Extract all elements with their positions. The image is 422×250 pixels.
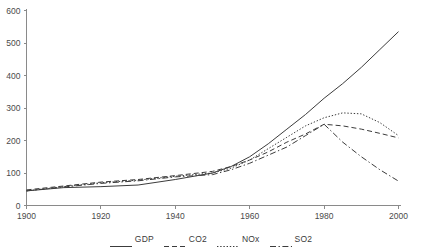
legend-item-gdp[interactable]: GDP xyxy=(110,234,154,244)
y-tick-label: 300 xyxy=(6,103,20,113)
legend-swatch-so2-icon xyxy=(270,236,292,243)
series-line-nox xyxy=(27,113,399,191)
y-tick-label: 200 xyxy=(6,136,20,146)
legend-label: CO2 xyxy=(189,234,207,244)
y-tick-label: 600 xyxy=(6,6,20,16)
x-tick-label: 2000 xyxy=(389,211,408,221)
legend-label: NOx xyxy=(242,234,260,244)
line-chart: 0100200300400500600 19001920194019601980… xyxy=(0,0,422,222)
legend-swatch-gdp-icon xyxy=(110,236,132,243)
legend-swatch-co2-icon xyxy=(164,236,186,243)
x-tick-label: 1920 xyxy=(91,211,110,221)
chart-svg: 0100200300400500600 19001920194019601980… xyxy=(0,0,422,222)
chart-page: 0100200300400500600 19001920194019601980… xyxy=(0,0,422,250)
x-tick-label: 1900 xyxy=(17,211,36,221)
x-axis: 190019201940196019802000 xyxy=(17,206,408,221)
legend-item-co2[interactable]: CO2 xyxy=(164,234,207,244)
series-line-co2 xyxy=(27,124,399,190)
legend-label: GDP xyxy=(135,234,154,244)
x-tick-label: 1980 xyxy=(315,211,334,221)
y-axis: 0100200300400500600 xyxy=(6,6,26,211)
legend-item-nox[interactable]: NOx xyxy=(217,234,260,244)
series-line-gdp xyxy=(27,32,399,191)
legend-swatch-nox-icon xyxy=(217,236,239,243)
y-tick-label: 100 xyxy=(6,168,20,178)
series-lines xyxy=(27,32,399,191)
series-line-so2 xyxy=(27,124,399,191)
x-tick-label: 1960 xyxy=(240,211,259,221)
legend-label: SO2 xyxy=(295,234,313,244)
y-tick-label: 0 xyxy=(16,201,21,211)
y-tick-label: 400 xyxy=(6,71,20,81)
y-tick-label: 500 xyxy=(6,38,20,48)
x-tick-label: 1940 xyxy=(166,211,185,221)
legend-item-so2[interactable]: SO2 xyxy=(270,234,313,244)
chart-legend: GDPCO2NOxSO2 xyxy=(0,228,422,250)
